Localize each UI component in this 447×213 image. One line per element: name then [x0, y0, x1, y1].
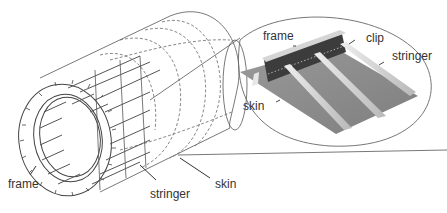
label-stringer-overview: stringer — [150, 188, 190, 200]
zoom-source-ellipse — [223, 40, 247, 130]
label-clip-detail: clip — [366, 32, 384, 44]
fuselage-diagram: frame stringer skin frame clip stringer … — [0, 0, 447, 213]
dashed-frames — [100, 20, 232, 168]
cage-stringers — [68, 56, 160, 190]
label-skin-overview: skin — [215, 178, 236, 190]
cylinder-outline — [40, 12, 239, 192]
label-frame-detail: frame — [263, 30, 294, 42]
label-skin-detail: skin — [243, 100, 264, 112]
overview-arrows — [30, 158, 210, 180]
label-stringer-detail: stringer — [392, 50, 432, 62]
label-frame-overview: frame — [8, 178, 39, 190]
